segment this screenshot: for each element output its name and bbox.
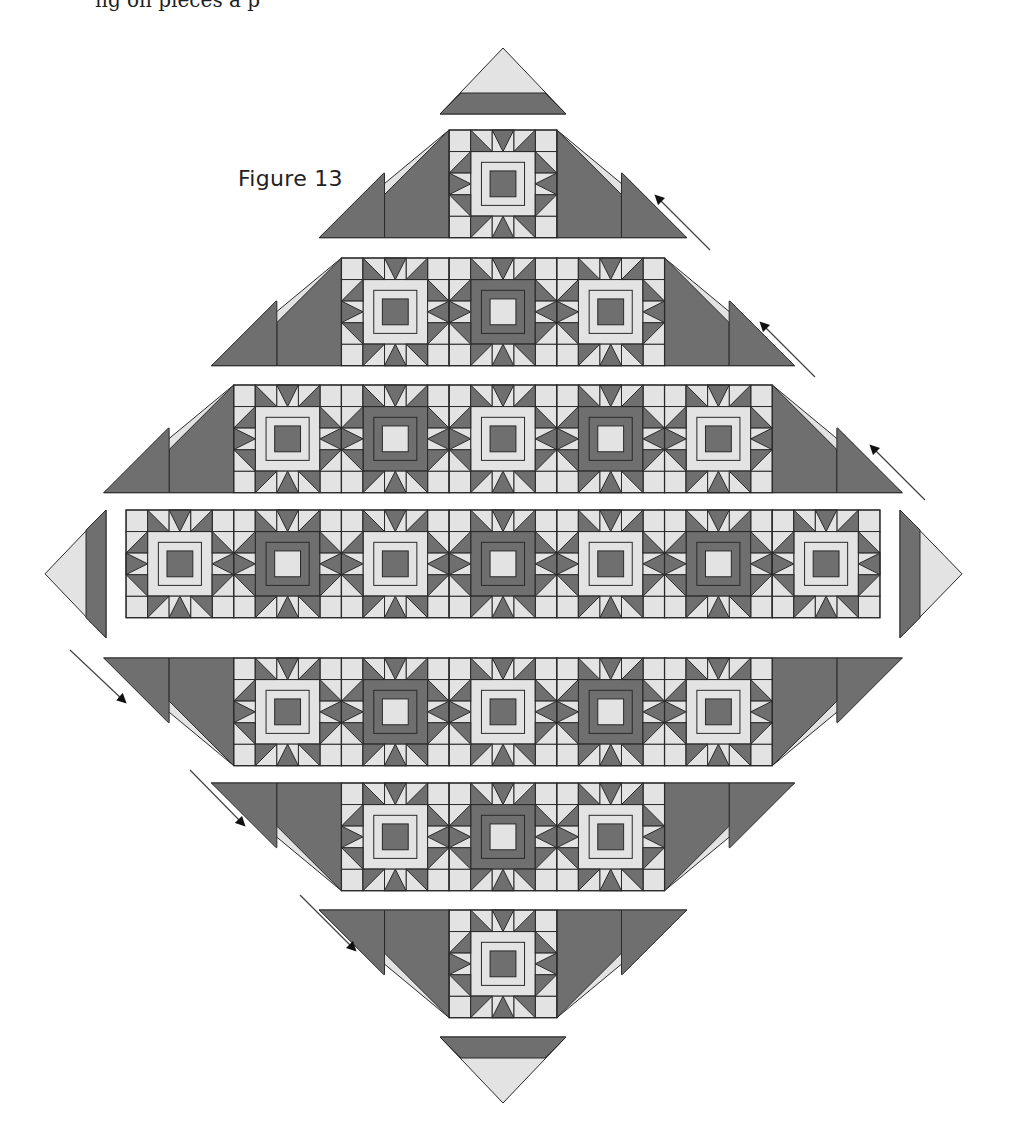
corner-square [449, 869, 471, 891]
quilt-block-A [557, 510, 665, 618]
corner-square [557, 471, 579, 493]
row-5 [104, 658, 903, 766]
center-square [705, 426, 731, 452]
corner-square [234, 385, 256, 407]
center-square [705, 699, 731, 725]
corner-square [643, 510, 665, 532]
corner-square [665, 510, 687, 532]
corner-square [449, 258, 471, 280]
corner-square [212, 596, 234, 618]
center-square [382, 426, 408, 452]
corner-square [665, 744, 687, 766]
corner-bottom [440, 1037, 566, 1103]
corner-square [557, 783, 579, 805]
corner-square [428, 385, 450, 407]
corner-square [535, 596, 557, 618]
corner-square [557, 744, 579, 766]
corner-square [234, 658, 256, 680]
quilt-block-A [449, 910, 557, 1018]
corner-square [535, 510, 557, 532]
corner-square [234, 596, 256, 618]
corner-square [234, 471, 256, 493]
row-4 [126, 510, 880, 618]
corner-square [320, 596, 342, 618]
corner-square [535, 783, 557, 805]
quilt-block-B [449, 258, 557, 366]
corner-square [858, 596, 880, 618]
sashing-left-horizontal [319, 910, 384, 975]
corner-square [341, 471, 363, 493]
corner-square [535, 130, 557, 152]
sashing-left-horizontal [211, 783, 276, 848]
corner-triangle-dark-band [440, 1037, 566, 1058]
quilt-block-B [341, 658, 449, 766]
center-square [382, 699, 408, 725]
corner-square [428, 258, 450, 280]
corner-square [428, 510, 450, 532]
corner-square [212, 510, 234, 532]
quilt-block-A [126, 510, 234, 618]
center-square [382, 551, 408, 577]
corner-top [440, 48, 566, 114]
center-square [813, 551, 839, 577]
center-square [598, 699, 624, 725]
corner-square [320, 744, 342, 766]
center-square [275, 426, 301, 452]
corner-square [449, 744, 471, 766]
corner-square [341, 658, 363, 680]
corner-square [428, 658, 450, 680]
quilt-block-A [665, 385, 773, 493]
corner-square [643, 744, 665, 766]
corner-square [557, 344, 579, 366]
quilt-block-A [557, 258, 665, 366]
center-square [598, 824, 624, 850]
corner-square [643, 658, 665, 680]
corner-square [772, 510, 794, 532]
corner-square [535, 258, 557, 280]
quilt-block-A [234, 658, 342, 766]
quilt-block-A [449, 658, 557, 766]
quilt-block-A [665, 658, 773, 766]
corner-square [341, 510, 363, 532]
corner-square [341, 596, 363, 618]
center-square [598, 299, 624, 325]
left-side-triangle [45, 510, 106, 638]
center-square [490, 299, 516, 325]
corner-triangle-dark-band [440, 93, 566, 114]
row-1 [319, 130, 687, 238]
center-square [598, 551, 624, 577]
corner-square [320, 471, 342, 493]
corner-square [751, 744, 773, 766]
corner-square [341, 869, 363, 891]
corner-square [751, 658, 773, 680]
quilt-layout [45, 48, 962, 1103]
center-square [490, 824, 516, 850]
center-square [490, 951, 516, 977]
corner-square [665, 385, 687, 407]
corner-square [449, 344, 471, 366]
corner-square [341, 258, 363, 280]
corner-square [535, 344, 557, 366]
quilt-block-B [665, 510, 773, 618]
corner-square [449, 658, 471, 680]
quilt-block-B [234, 510, 342, 618]
quilt-block-B [341, 385, 449, 493]
quilt-block-A [449, 385, 557, 493]
quilt-block-A [341, 783, 449, 891]
corner-square [665, 658, 687, 680]
corner-square [557, 658, 579, 680]
quilt-block-B [449, 510, 557, 618]
center-square [490, 699, 516, 725]
corner-square [535, 385, 557, 407]
corner-square [557, 258, 579, 280]
corner-square [428, 783, 450, 805]
corner-square [428, 344, 450, 366]
center-square [382, 299, 408, 325]
center-square [705, 551, 731, 577]
corner-square [643, 344, 665, 366]
row-3 [104, 385, 903, 493]
row-2 [211, 258, 794, 366]
sashing-right-horizontal [621, 173, 686, 238]
quilt-block-A [341, 258, 449, 366]
center-square [382, 824, 408, 850]
